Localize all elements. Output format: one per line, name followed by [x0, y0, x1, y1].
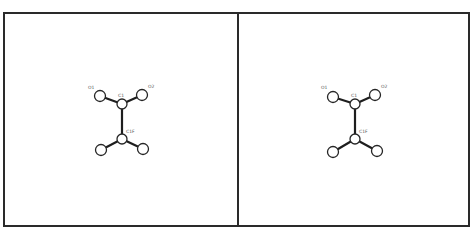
atom-label-o1: O1 [321, 85, 328, 90]
atom-label-c1: C1 [118, 93, 124, 98]
atom-c1-icon [350, 99, 360, 109]
atom-c1-icon [117, 99, 127, 109]
left-stereo-panel: O1O2C1C1F [88, 84, 155, 156]
atom-x2-icon [138, 144, 149, 155]
atom-x2-icon [372, 146, 383, 157]
atom-o1-icon [328, 92, 339, 103]
atom-label-c1f: C1F [359, 129, 368, 134]
atom-x1-icon [96, 145, 107, 156]
atom-label-c1f: C1F [126, 129, 135, 134]
atom-o2-icon [137, 90, 148, 101]
atom-o1-icon [95, 91, 106, 102]
atom-o2-icon [370, 90, 381, 101]
right-stereo-panel: O1O2C1C1F [321, 84, 388, 158]
atom-c1f-icon [117, 134, 127, 144]
atom-label-c1: C1 [351, 93, 357, 98]
atom-label-o2: O2 [381, 84, 388, 89]
stereo-diagram: O1O2C1C1F O1O2C1C1F [0, 0, 473, 231]
atom-x1-icon [328, 147, 339, 158]
atom-c1f-icon [350, 134, 360, 144]
atom-label-o2: O2 [148, 84, 155, 89]
outer-frame [4, 13, 469, 226]
atom-label-o1: O1 [88, 85, 95, 90]
